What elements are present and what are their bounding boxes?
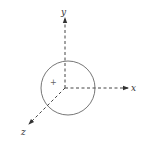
diagram-canvas: y x z + xyxy=(0,0,146,149)
y-axis-label: y xyxy=(60,7,67,17)
x-axis-label: x xyxy=(131,83,136,93)
center-marker: + xyxy=(50,78,57,87)
z-axis xyxy=(29,88,65,124)
z-axis-label: z xyxy=(20,127,26,137)
